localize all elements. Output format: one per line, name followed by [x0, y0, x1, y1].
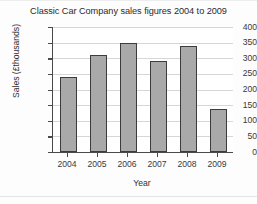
gridline	[53, 74, 233, 75]
x-tick-mark	[157, 153, 158, 157]
gridline	[53, 43, 233, 44]
y-axis-label: Sales (£thousands)	[11, 1, 21, 121]
gridline	[53, 136, 233, 137]
y-tick-mark	[48, 136, 52, 137]
y-tick-label: 350	[211, 38, 257, 47]
y-tick-mark	[48, 90, 52, 91]
x-tick-mark	[187, 153, 188, 157]
y-tick-label: 400	[211, 23, 257, 32]
y-tick-label: 200	[211, 85, 257, 94]
bar-2008	[180, 46, 197, 152]
scan-artifact-bottom	[0, 196, 257, 197]
scan-artifact-top	[0, 0, 257, 1]
plot-area	[52, 27, 233, 153]
x-tick-mark	[127, 153, 128, 157]
y-tick-label: 250	[211, 69, 257, 78]
y-tick-mark	[48, 74, 52, 75]
y-tick-mark	[48, 121, 52, 122]
x-tick-mark	[217, 153, 218, 157]
y-tick-mark	[48, 58, 52, 59]
y-tick-label: 100	[211, 116, 257, 125]
x-tick-label-2009: 2009	[197, 160, 237, 169]
y-tick-label: 150	[211, 101, 257, 110]
y-tick-mark	[48, 152, 52, 153]
gridline	[53, 27, 233, 28]
x-tick-mark	[67, 153, 68, 157]
gridline	[53, 121, 233, 122]
y-tick-mark	[48, 105, 52, 106]
bar-2004	[60, 77, 77, 152]
gridline	[53, 90, 233, 91]
gridline	[53, 58, 233, 59]
bar-2007	[150, 61, 167, 152]
chart-title: Classic Car Company sales figures 2004 t…	[0, 6, 257, 16]
x-axis-label: Year	[52, 178, 232, 188]
y-tick-mark	[48, 43, 52, 44]
bar-2005	[90, 55, 107, 152]
bar-2006	[120, 43, 137, 152]
y-tick-label: 300	[211, 54, 257, 63]
gridline	[53, 105, 233, 106]
bar-chart-figure: Classic Car Company sales figures 2004 t…	[0, 0, 257, 204]
x-tick-mark	[97, 153, 98, 157]
y-tick-label: 50	[211, 132, 257, 141]
y-tick-mark	[48, 27, 52, 28]
